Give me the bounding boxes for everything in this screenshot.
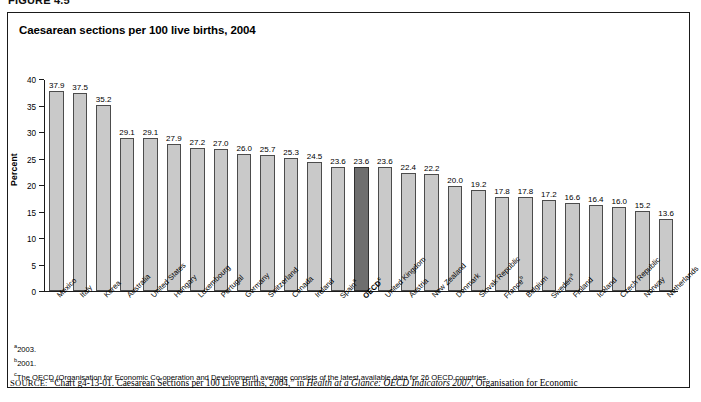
bar-value-label: 23.6 — [377, 157, 393, 166]
y-tick-label: 0 — [31, 288, 36, 297]
bar-value-label: 27.2 — [190, 138, 206, 147]
figure-tag: FIGURE 4.5 — [8, 0, 70, 6]
bar-australia[interactable]: 29.1 — [120, 138, 135, 292]
footnote-b: b2001. — [14, 355, 678, 369]
bar-cell: 20.0 — [443, 80, 466, 291]
bar-value-label: 27.9 — [166, 134, 182, 143]
y-tick-mark — [39, 159, 44, 160]
source-pre: “Chart g4-13-01. Caesarean Sections per … — [50, 378, 306, 388]
bar-value-label: 26.0 — [236, 144, 252, 153]
bar-united-states[interactable]: 29.1 — [143, 138, 158, 292]
footnote-b-text: 2001. — [17, 358, 36, 367]
bar-series: 37.937.535.229.129.127.927.227.026.025.7… — [45, 80, 678, 291]
bar-cell: 35.2 — [92, 80, 115, 291]
bar-cell: 16.0 — [608, 80, 631, 291]
bar-cell: 23.6 — [373, 80, 396, 291]
bar-cell: 25.7 — [256, 80, 279, 291]
bar-value-label: 37.9 — [49, 81, 65, 90]
bar-value-label: 25.3 — [283, 148, 299, 157]
y-tick-label: 25 — [27, 155, 36, 164]
bar-cell: 17.2 — [537, 80, 560, 291]
bar-luxembourg[interactable]: 27.2 — [190, 148, 205, 291]
bar-value-label: 20.0 — [447, 176, 463, 185]
plot-area: 0510152025303540 37.937.535.229.129.127.… — [44, 80, 678, 292]
bar-value-label: 15.2 — [635, 201, 651, 210]
bar-value-label: 23.6 — [354, 157, 370, 166]
bar-value-label: 29.1 — [143, 128, 159, 137]
y-tick-mark — [39, 291, 44, 292]
bar-cell: 23.6 — [350, 80, 373, 291]
y-tick-label: 20 — [27, 182, 36, 191]
bar-value-label: 19.2 — [471, 180, 487, 189]
bar-value-label: 17.8 — [494, 187, 510, 196]
footnotes: a2003. b2001. cThe OECD (Organisation fo… — [14, 341, 678, 383]
y-tick-label: 10 — [27, 235, 36, 244]
bar-ireland[interactable]: 24.5 — [307, 162, 322, 291]
y-tick-label: 40 — [27, 76, 36, 85]
bar-value-label: 17.2 — [541, 190, 557, 199]
bar-cell: 19.2 — [467, 80, 490, 291]
bar-oecd[interactable]: 23.6 — [354, 167, 369, 291]
bar-value-label: 24.5 — [307, 152, 323, 161]
y-tick-mark — [39, 265, 44, 266]
y-tick-label: 15 — [27, 208, 36, 217]
y-axis-title: Percent — [9, 153, 19, 186]
bar-cell: 29.1 — [139, 80, 162, 291]
source-publication: Health at a Glance: OECD Indicators 2007 — [307, 378, 472, 388]
bar-italy[interactable]: 37.5 — [73, 93, 88, 291]
bar-cell: 23.6 — [326, 80, 349, 291]
y-tick-mark — [39, 238, 44, 239]
bar-value-label: 22.4 — [400, 163, 416, 172]
bar-spain[interactable]: 23.6 — [331, 167, 346, 291]
bar-mexico[interactable]: 37.9 — [49, 91, 64, 291]
y-tick-mark — [39, 132, 44, 133]
bar-cell: 27.0 — [209, 80, 232, 291]
y-tick-mark — [39, 185, 44, 186]
bar-value-label: 16.6 — [565, 193, 581, 202]
bar-value-label: 37.5 — [72, 83, 88, 92]
source-label: SOURCE: — [10, 378, 48, 388]
bar-value-label: 23.6 — [330, 157, 346, 166]
bar-value-label: 13.6 — [658, 209, 674, 218]
y-tick-label: 5 — [31, 261, 36, 270]
bar-value-label: 16.4 — [588, 195, 604, 204]
footnote-a-text: 2003. — [17, 345, 36, 354]
x-axis-category-labels: MexicoItalyKoreaAustraliaUnited StatesHu… — [45, 293, 679, 345]
bar-cell: 27.2 — [186, 80, 209, 291]
bar-value-label: 29.1 — [119, 128, 135, 137]
y-tick-mark — [39, 212, 44, 213]
bar-cell: 16.6 — [561, 80, 584, 291]
bar-cell: 16.4 — [584, 80, 607, 291]
footnote-a: a2003. — [14, 341, 678, 355]
bar-korea[interactable]: 35.2 — [96, 105, 111, 291]
bar-cell: 25.3 — [279, 80, 302, 291]
y-tick-mark — [39, 79, 44, 80]
bar-cell: 26.0 — [233, 80, 256, 291]
source-post: , Organisation for Economic — [471, 378, 578, 388]
bar-switzerland[interactable]: 25.7 — [260, 155, 275, 291]
bar-value-label: 17.8 — [518, 187, 534, 196]
bar-value-label: 25.7 — [260, 145, 276, 154]
bar-value-label: 35.2 — [96, 95, 112, 104]
bar-value-label: 16.0 — [611, 197, 627, 206]
bar-united-kingdom[interactable]: 23.6 — [378, 167, 393, 291]
bar-value-label: 22.2 — [424, 164, 440, 173]
chart-title: Caesarean sections per 100 live births, … — [19, 24, 256, 36]
bar-cell: 29.1 — [115, 80, 138, 291]
bar-value-label: 27.0 — [213, 139, 229, 148]
bar-cell: 37.9 — [45, 80, 68, 291]
bar-cell: 37.5 — [68, 80, 91, 291]
bar-germany[interactable]: 26.0 — [237, 154, 252, 291]
y-tick-label: 30 — [27, 129, 36, 138]
y-tick-mark — [39, 106, 44, 107]
y-tick-label: 35 — [27, 102, 36, 111]
bar-cell: 27.9 — [162, 80, 185, 291]
bar-cell: 24.5 — [303, 80, 326, 291]
bar-new-zealand[interactable]: 22.2 — [424, 174, 439, 291]
source-line: SOURCE: “Chart g4-13-01. Caesarean Secti… — [10, 378, 694, 390]
